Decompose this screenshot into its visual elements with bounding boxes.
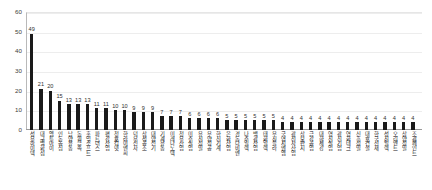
bar-item[interactable]: 13 [73, 12, 82, 130]
bar-rect[interactable] [169, 116, 172, 130]
bar-rect[interactable] [393, 122, 396, 130]
bar-item[interactable]: 5 [222, 12, 231, 130]
bar-rect[interactable] [262, 120, 265, 130]
bar-item[interactable]: 4 [371, 12, 380, 130]
bar-item[interactable]: 6 [185, 12, 194, 130]
bar-rect[interactable] [234, 120, 237, 130]
bar-rect[interactable] [151, 112, 154, 130]
bar-item[interactable]: 4 [352, 12, 361, 130]
bar-rect[interactable] [114, 110, 117, 130]
bar-item[interactable]: 5 [241, 12, 250, 130]
bar-item[interactable]: 5 [259, 12, 268, 130]
bar-rect[interactable] [188, 118, 191, 130]
bar-item[interactable]: 4 [408, 12, 417, 130]
bar-rect[interactable] [244, 120, 247, 130]
x-axis-label-slot: 파트너스 [92, 131, 101, 189]
bar-item[interactable]: 4 [278, 12, 287, 130]
bar-item[interactable]: 7 [166, 12, 175, 130]
bar-item[interactable]: 6 [204, 12, 213, 130]
bar-value-label: 7 [170, 110, 173, 116]
bar-item[interactable]: 13 [64, 12, 73, 130]
bar-rect[interactable] [207, 118, 210, 130]
bar-rect[interactable] [76, 104, 79, 130]
bar-rect[interactable] [355, 122, 358, 130]
bar-item[interactable]: 4 [297, 12, 306, 130]
bar-item[interactable]: 7 [157, 12, 166, 130]
bar-rect[interactable] [86, 104, 89, 130]
bar-value-label: 7 [179, 110, 182, 116]
bar-rect[interactable] [197, 118, 200, 130]
bar-item[interactable]: 5 [232, 12, 241, 130]
bar-item[interactable]: 4 [343, 12, 352, 130]
bar-rect[interactable] [132, 112, 135, 130]
x-axis-category-label: 은화산업 [224, 131, 229, 150]
bar-item[interactable]: 21 [36, 12, 45, 130]
bar-item[interactable]: 9 [139, 12, 148, 130]
bar-rect[interactable] [225, 120, 228, 130]
x-axis-category-label: 광전자산업 [289, 131, 294, 155]
x-axis-category-label: 나주일렉 [243, 131, 248, 150]
x-axis-label-slot: 은화산업 [222, 131, 231, 189]
bar-item[interactable]: 6 [194, 12, 203, 130]
bar-rect[interactable] [281, 122, 284, 130]
bar-rect[interactable] [300, 122, 303, 130]
bar-rect[interactable] [160, 116, 163, 130]
bar-item[interactable]: 11 [101, 12, 110, 130]
bar-item[interactable]: 4 [325, 12, 334, 130]
bar-item[interactable]: 20 [46, 12, 55, 130]
bar-rect[interactable] [327, 122, 330, 130]
bar-item[interactable]: 4 [334, 12, 343, 130]
bar-item[interactable]: 4 [287, 12, 296, 130]
bar-rect[interactable] [39, 89, 42, 130]
bar-item[interactable]: 10 [120, 12, 129, 130]
x-axis-label-slot: 우진플라 [269, 131, 278, 189]
bar-item[interactable]: 4 [315, 12, 324, 130]
bar-rect[interactable] [104, 108, 107, 130]
bar-rect[interactable] [95, 108, 98, 130]
bar-item[interactable]: 7 [176, 12, 185, 130]
bar-item[interactable]: 9 [148, 12, 157, 130]
bar-rect[interactable] [30, 34, 33, 130]
bar-item[interactable]: 4 [306, 12, 315, 130]
bar-value-label: 13 [84, 98, 90, 104]
bar-item[interactable]: 5 [269, 12, 278, 130]
bar-item[interactable]: 49 [27, 12, 36, 130]
bar-value-label: 4 [393, 116, 396, 122]
bar-rect[interactable] [402, 122, 405, 130]
x-axis-label-slot: 홍익소프트 [83, 131, 92, 189]
bar-rect[interactable] [142, 112, 145, 130]
bar-item[interactable]: 4 [399, 12, 408, 130]
bar-rect[interactable] [337, 122, 340, 130]
x-axis-category-label: 성진일렉 [382, 131, 387, 150]
bar-rect[interactable] [309, 122, 312, 130]
bar-rect[interactable] [253, 120, 256, 130]
bar-rect[interactable] [374, 122, 377, 130]
x-axis-label-slot: 삼성공조 [139, 131, 148, 189]
bar-item[interactable]: 4 [390, 12, 399, 130]
bar-item[interactable]: 9 [129, 12, 138, 130]
bar-rect[interactable] [365, 122, 368, 130]
bar-rect[interactable] [411, 122, 414, 130]
bar-rect[interactable] [290, 122, 293, 130]
bar-rect[interactable] [318, 122, 321, 130]
bar-rect[interactable] [179, 116, 182, 130]
bar-rect[interactable] [272, 120, 275, 130]
bar-item[interactable]: 4 [380, 12, 389, 130]
bar-item[interactable]: 6 [213, 12, 222, 130]
bar-item[interactable]: 10 [111, 12, 120, 130]
bar-rect[interactable] [58, 101, 61, 131]
bar-item[interactable]: 13 [83, 12, 92, 130]
bar-rect[interactable] [49, 91, 52, 130]
bar-item[interactable]: 4 [362, 12, 371, 130]
x-axis-category-label: 청우산업 [178, 131, 183, 150]
bar-item[interactable]: 11 [92, 12, 101, 130]
bar-rect[interactable] [67, 104, 70, 130]
bar-item[interactable]: 5 [250, 12, 259, 130]
x-axis-label-slot: 남양유통 [64, 131, 73, 189]
bar-rect[interactable] [383, 122, 386, 130]
bar-rect[interactable] [216, 118, 219, 130]
bar-item[interactable]: 15 [55, 12, 64, 130]
bar-rect[interactable] [123, 110, 126, 130]
bar-rect[interactable] [346, 122, 349, 130]
x-axis-label-slot: 경동나비엔 [232, 131, 241, 189]
